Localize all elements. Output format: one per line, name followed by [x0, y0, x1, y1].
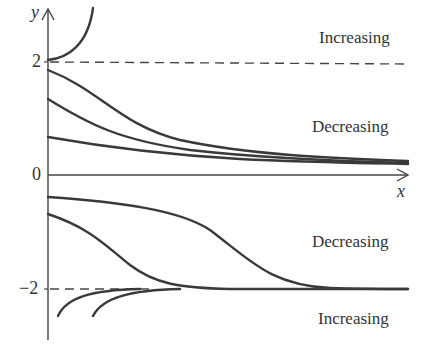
- region-label-between-0-2: Decreasing: [312, 117, 388, 137]
- curve-decreasing-3: [48, 137, 408, 164]
- curve-decreasing-1: [48, 70, 408, 161]
- curve-increasing-below-minus2-2: [93, 289, 180, 316]
- tick-label-minus-2: −2: [19, 278, 38, 299]
- x-axis-label: x: [397, 181, 405, 202]
- region-label-above-2: Increasing: [319, 28, 390, 48]
- tick-label-0: 0: [32, 164, 41, 185]
- equilibrium-line-y2: [50, 62, 410, 64]
- tick-label-2: 2: [32, 51, 41, 72]
- region-label-between-minus2-0: Decreasing: [312, 232, 388, 252]
- region-label-below-minus2: Increasing: [318, 309, 389, 329]
- diagram-canvas: [0, 0, 436, 355]
- solution-curves: [48, 8, 408, 316]
- curve-increasing-below-minus2-1: [58, 289, 140, 316]
- y-axis-label: y: [31, 2, 39, 23]
- curve-increasing-above-2: [48, 8, 93, 60]
- x-axis: [48, 169, 408, 181]
